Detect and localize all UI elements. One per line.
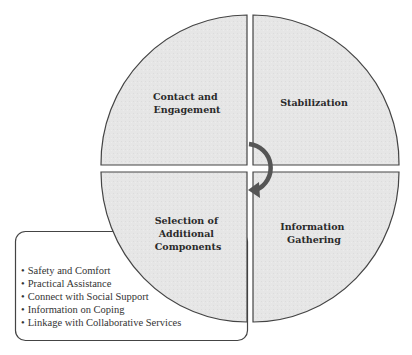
quadrant-information-gathering (253, 172, 399, 322)
list-item: •Connect with Social Support (21, 291, 149, 302)
list-item: •Practical Assistance (21, 278, 112, 289)
quadrant-stabilization (253, 15, 399, 165)
label-stabilization: Stabilization (280, 97, 348, 108)
list-item: •Linkage with Collaborative Services (21, 317, 181, 328)
list-item: •Safety and Comfort (21, 265, 111, 276)
diagram-canvas: Contact and Engagement Stabilization Inf… (0, 0, 412, 355)
label-selection-of-additional-components: Selection of Additional Components (155, 215, 222, 252)
quadrant-contact-and-engagement (101, 15, 247, 165)
list-item: •Information on Coping (21, 304, 125, 315)
